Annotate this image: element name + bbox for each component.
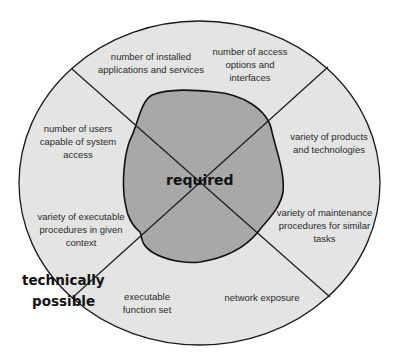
segment-label-top-left: number of installed applications and ser… <box>96 50 206 76</box>
segment-label-top-right: number of access options and interfaces <box>210 45 290 84</box>
attack-surface-diagram: number of installed applications and ser… <box>0 0 396 359</box>
segment-label-bottom-right: network exposure <box>212 291 312 304</box>
segment-label-right-upper: variety of products and technologies <box>284 130 374 156</box>
outer-label-possible: possible <box>32 293 95 309</box>
segment-label-bottom-left: executable function set <box>116 290 178 316</box>
center-label-required: required <box>166 172 234 188</box>
segment-label-left-lower: variety of executable procedures in give… <box>32 210 130 249</box>
segment-label-right-lower: variety of maintenance procedures for si… <box>272 206 377 245</box>
outer-label-technically: technically <box>22 272 105 288</box>
segment-label-left-upper: number of users capable of system access <box>34 122 122 161</box>
